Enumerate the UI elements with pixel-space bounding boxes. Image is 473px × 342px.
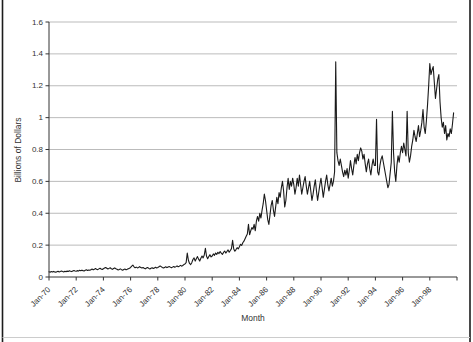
x-axis-tick-labels: Jan-70Jan-72Jan-74Jan-76Jan-78Jan-80Jan-… <box>29 285 434 309</box>
y-tick-label: 0.2 <box>32 241 44 250</box>
y-tick-label: 0.8 <box>32 145 44 154</box>
x-tick-label: Jan-74 <box>83 285 107 309</box>
axes <box>46 22 458 281</box>
chart-page: 00.20.40.60.811.21.41.6 Jan-70Jan-72Jan-… <box>0 0 473 342</box>
x-axis-title: Month <box>241 313 265 323</box>
x-tick-label: Jan-96 <box>382 285 406 309</box>
y-tick-label: 1.4 <box>32 49 44 58</box>
x-tick-label: Jan-90 <box>301 285 325 309</box>
series-line <box>49 62 454 272</box>
x-tick-label: Jan-70 <box>29 285 53 309</box>
y-axis-title: Billions of Dollars <box>13 117 23 182</box>
y-tick-label: 1.2 <box>32 81 44 90</box>
y-tick-label: 1.6 <box>32 18 44 27</box>
x-tick-label: Jan-94 <box>355 285 379 309</box>
x-tick-label: Jan-82 <box>192 285 216 309</box>
x-tick-label: Jan-92 <box>328 285 352 309</box>
x-tick-label: Jan-84 <box>219 285 243 309</box>
x-tick-label: Jan-88 <box>274 285 298 309</box>
gridlines <box>49 22 457 245</box>
x-tick-label: Jan-78 <box>138 285 162 309</box>
y-tick-label: 0.4 <box>32 209 44 218</box>
y-tick-label: 0.6 <box>32 177 44 186</box>
x-tick-label: Jan-98 <box>410 285 434 309</box>
line-chart: 00.20.40.60.811.21.41.6 Jan-70Jan-72Jan-… <box>0 0 473 342</box>
y-tick-label: 1 <box>39 113 44 122</box>
y-tick-label: 0 <box>39 273 44 282</box>
x-tick-label: Jan-86 <box>246 285 270 309</box>
x-tick-label: Jan-72 <box>56 285 80 309</box>
x-tick-label: Jan-76 <box>110 285 134 309</box>
x-tick-label: Jan-80 <box>165 285 189 309</box>
data-series <box>49 62 454 272</box>
y-axis-tick-labels: 00.20.40.60.811.21.41.6 <box>32 18 44 282</box>
